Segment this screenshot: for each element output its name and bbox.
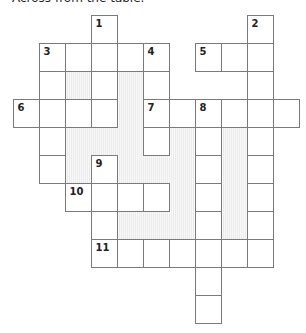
crossword-cell[interactable]: 5 xyxy=(195,43,222,72)
crossword-cell[interactable] xyxy=(143,71,170,100)
shaded-block xyxy=(169,127,195,155)
crossword-cell[interactable] xyxy=(195,239,222,268)
crossword-cell[interactable] xyxy=(91,71,118,100)
crossword-cell[interactable] xyxy=(143,183,170,212)
shaded-block xyxy=(65,127,91,155)
crossword-cell[interactable] xyxy=(91,183,118,212)
crossword-cell[interactable]: 7 xyxy=(143,99,170,128)
crossword-cell[interactable]: 2 xyxy=(247,15,274,44)
clue-number: 11 xyxy=(96,243,110,253)
crossword-cell[interactable] xyxy=(247,71,274,100)
crossword-cell[interactable]: 6 xyxy=(13,99,40,128)
clue-number: 7 xyxy=(148,103,155,113)
shaded-block xyxy=(169,183,195,211)
crossword-cell[interactable] xyxy=(143,239,170,268)
shaded-block xyxy=(91,127,117,155)
crossword-cell[interactable] xyxy=(273,99,300,128)
crossword-cell[interactable]: 1 xyxy=(91,15,118,44)
shaded-block xyxy=(117,211,143,239)
instructions-text: Across from the table. xyxy=(12,0,144,5)
crossword-cell[interactable] xyxy=(247,211,274,240)
shaded-block xyxy=(117,99,143,127)
crossword-cell[interactable] xyxy=(195,267,222,296)
crossword-cell[interactable]: 3 xyxy=(39,43,66,72)
crossword-cell[interactable] xyxy=(65,43,92,72)
clue-number: 3 xyxy=(44,47,51,57)
crossword-cell[interactable] xyxy=(195,155,222,184)
crossword-cell[interactable] xyxy=(39,71,66,100)
shaded-block xyxy=(143,155,169,183)
crossword-cell[interactable] xyxy=(247,155,274,184)
shaded-block xyxy=(169,211,195,239)
crossword-cell[interactable] xyxy=(39,155,66,184)
shaded-block xyxy=(221,183,247,211)
crossword-cell[interactable] xyxy=(117,183,144,212)
crossword-cell[interactable] xyxy=(221,43,248,72)
crossword-cell[interactable] xyxy=(91,43,118,72)
crossword-cell[interactable]: 11 xyxy=(91,239,118,268)
clue-number: 4 xyxy=(148,47,155,57)
crossword-cell[interactable] xyxy=(39,127,66,156)
crossword-cell[interactable] xyxy=(195,295,222,324)
shaded-block xyxy=(65,155,91,183)
crossword-cell[interactable] xyxy=(247,183,274,212)
crossword-cell[interactable] xyxy=(117,43,144,72)
crossword-cell[interactable] xyxy=(247,43,274,72)
clue-number: 5 xyxy=(200,47,207,57)
clue-number: 8 xyxy=(200,103,207,113)
crossword-cell[interactable] xyxy=(195,127,222,156)
crossword-cell[interactable] xyxy=(221,99,248,128)
shaded-block xyxy=(117,155,143,183)
crossword-cell[interactable] xyxy=(247,127,274,156)
crossword-cell[interactable] xyxy=(65,99,92,128)
crossword-cell[interactable]: 9 xyxy=(91,155,118,184)
crossword-cell[interactable] xyxy=(91,211,118,240)
crossword-cell[interactable] xyxy=(195,211,222,240)
crossword-cell[interactable] xyxy=(169,239,196,268)
crossword-cell[interactable] xyxy=(117,239,144,268)
shaded-block xyxy=(117,71,143,99)
crossword-cell[interactable]: 4 xyxy=(143,43,170,72)
clue-number: 10 xyxy=(70,187,84,197)
shaded-block xyxy=(221,155,247,183)
shaded-block xyxy=(65,71,91,99)
crossword-cell[interactable] xyxy=(195,183,222,212)
crossword-cell[interactable] xyxy=(221,239,248,268)
shaded-block xyxy=(117,127,143,155)
clue-number: 9 xyxy=(96,159,103,169)
crossword-cell[interactable]: 10 xyxy=(65,183,92,212)
crossword-grid: 1234567891011 xyxy=(13,15,299,323)
crossword-cell[interactable] xyxy=(39,99,66,128)
crossword-cell[interactable] xyxy=(143,127,170,156)
crossword-cell[interactable] xyxy=(247,99,274,128)
shaded-block xyxy=(221,211,247,239)
shaded-block xyxy=(169,155,195,183)
crossword-cell[interactable] xyxy=(91,99,118,128)
crossword-cell[interactable] xyxy=(247,239,274,268)
shaded-block xyxy=(221,127,247,155)
crossword-cell[interactable] xyxy=(169,99,196,128)
shaded-block xyxy=(143,211,169,239)
crossword-cell[interactable]: 8 xyxy=(195,99,222,128)
clue-number: 1 xyxy=(96,19,103,29)
clue-number: 6 xyxy=(18,103,25,113)
clue-number: 2 xyxy=(252,19,259,29)
